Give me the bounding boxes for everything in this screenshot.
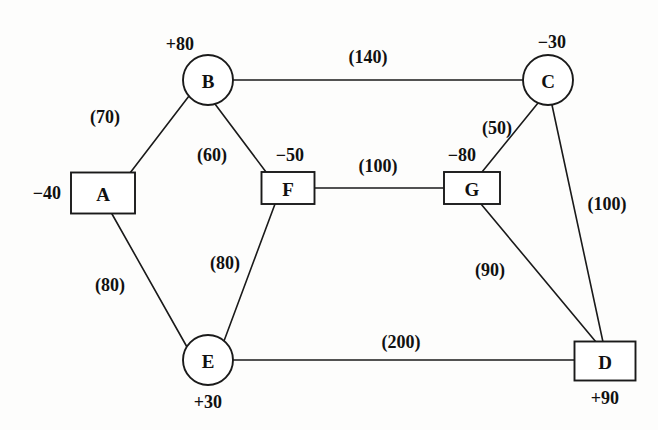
node-label-e: E: [202, 351, 215, 372]
node-supply-c: −30: [538, 32, 566, 52]
node-label-a: A: [96, 184, 110, 205]
node-supply-d: +90: [591, 388, 619, 408]
edge-label-e-f: (80): [210, 253, 240, 274]
edge-label-g-c: (50): [482, 118, 512, 139]
node-supply-a: −40: [33, 183, 61, 203]
edge-c-d[interactable]: [552, 105, 603, 342]
network-diagram-svg: ABCDEFG (70)(140)(60)(80)(80)(100)(50)(1…: [0, 0, 658, 430]
edge-label-e-d: (200): [382, 332, 421, 353]
edge-label-a-e: (80): [95, 275, 125, 296]
node-supply-f: −50: [276, 145, 304, 165]
nodes-layer: ABCDEFG: [71, 55, 636, 385]
edge-label-b-f: (60): [197, 145, 227, 166]
edge-label-g-d: (90): [475, 260, 505, 281]
node-label-d: D: [598, 352, 612, 373]
edges-layer: [112, 80, 603, 360]
network-diagram-canvas: ABCDEFG (70)(140)(60)(80)(80)(100)(50)(1…: [0, 0, 658, 430]
node-supply-e: +30: [194, 392, 222, 412]
edge-label-c-d: (100): [588, 194, 627, 215]
node-supply-g: −80: [448, 145, 476, 165]
edge-label-a-b: (70): [90, 107, 120, 128]
edge-label-b-c: (140): [349, 47, 388, 68]
node-label-g: G: [465, 179, 480, 200]
node-label-b: B: [202, 71, 215, 92]
node-label-c: C: [541, 71, 555, 92]
node-label-f: F: [282, 179, 294, 200]
node-supply-b: +80: [166, 34, 194, 54]
edge-label-f-g: (100): [359, 156, 398, 177]
edge-a-b[interactable]: [130, 96, 189, 173]
